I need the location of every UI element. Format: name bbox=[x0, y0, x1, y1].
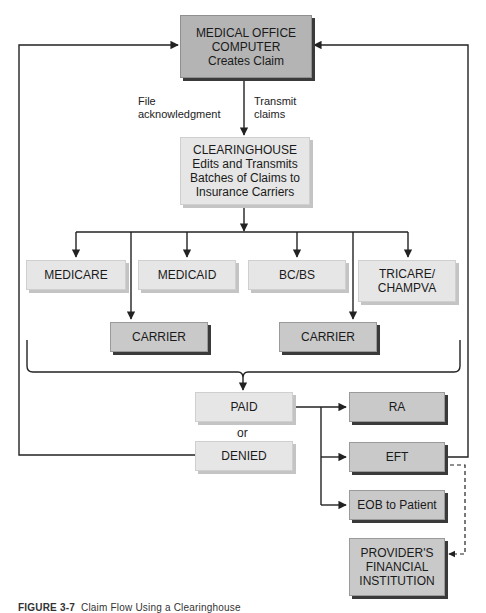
clearinghouse-line3: Batches of Claims to bbox=[190, 171, 300, 185]
medical-office-line1: MEDICAL OFFICE bbox=[196, 26, 296, 40]
medicare-label: MEDICARE bbox=[44, 268, 107, 282]
providers-financial-institution-box: PROVIDER'S FINANCIAL INSTITUTION bbox=[349, 538, 445, 596]
paid-label: PAID bbox=[230, 400, 257, 414]
or-label: or bbox=[237, 427, 248, 440]
clearinghouse-line1: CLEARINGHOUSE bbox=[193, 143, 297, 157]
champva-label: CHAMPVA bbox=[378, 281, 436, 295]
clearinghouse-line4: Insurance Carriers bbox=[196, 185, 295, 199]
eft-box: EFT bbox=[349, 442, 445, 472]
bcbs-label: BC/BS bbox=[279, 268, 315, 282]
tricare-label: TRICARE/ bbox=[379, 267, 435, 281]
clearinghouse-box: CLEARINGHOUSE Edits and Transmits Batche… bbox=[180, 137, 310, 205]
eob-to-patient-box: EOB to Patient bbox=[349, 490, 445, 520]
carrier-right-label: CARRIER bbox=[301, 330, 355, 344]
denied-box: DENIED bbox=[195, 441, 293, 471]
transmit-line1: Transmit bbox=[254, 95, 296, 108]
ra-label: RA bbox=[389, 400, 406, 414]
denied-label: DENIED bbox=[221, 449, 266, 463]
file-ack-line2: acknowledgment bbox=[138, 108, 221, 121]
medicare-box: MEDICARE bbox=[26, 260, 126, 290]
provider-line1: PROVIDER'S bbox=[361, 546, 434, 560]
paid-box: PAID bbox=[195, 392, 293, 422]
carrier-box-left: CARRIER bbox=[110, 322, 208, 352]
medical-office-line3: Creates Claim bbox=[208, 54, 284, 68]
file-acknowledgment-label: File acknowledgment bbox=[138, 95, 221, 121]
provider-line3: INSTITUTION bbox=[359, 574, 434, 588]
bcbs-box: BC/BS bbox=[248, 260, 346, 290]
transmit-line2: claims bbox=[254, 108, 296, 121]
ra-box: RA bbox=[349, 392, 445, 422]
figure-caption-text: Claim Flow Using a Clearinghouse bbox=[81, 602, 241, 613]
eft-label: EFT bbox=[386, 450, 409, 464]
figure-number: FIGURE 3-7 bbox=[18, 602, 75, 613]
provider-line2: FINANCIAL bbox=[366, 560, 429, 574]
medicaid-box: MEDICAID bbox=[138, 260, 236, 290]
medical-office-computer-box: MEDICAL OFFICE COMPUTER Creates Claim bbox=[180, 15, 312, 78]
tricare-champva-box: TRICARE/ CHAMPVA bbox=[358, 260, 456, 302]
clearinghouse-line2: Edits and Transmits bbox=[192, 157, 297, 171]
transmit-claims-label: Transmit claims bbox=[254, 95, 296, 121]
carrier-left-label: CARRIER bbox=[132, 330, 186, 344]
figure-caption: FIGURE 3-7 Claim Flow Using a Clearingho… bbox=[18, 602, 241, 613]
medicaid-label: MEDICAID bbox=[158, 268, 217, 282]
eob-label: EOB to Patient bbox=[357, 498, 436, 512]
carrier-box-right: CARRIER bbox=[279, 322, 377, 352]
medical-office-line2: COMPUTER bbox=[212, 40, 281, 54]
file-ack-line1: File bbox=[138, 95, 221, 108]
